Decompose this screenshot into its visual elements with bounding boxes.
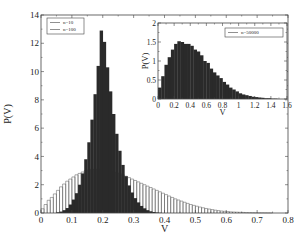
bar bbox=[121, 165, 124, 213]
bar-outline bbox=[205, 208, 208, 213]
x-tick-label: 0.1 bbox=[66, 215, 77, 225]
legend: n=50000 bbox=[225, 28, 283, 37]
bar bbox=[90, 120, 93, 213]
x-tick-label: 0.2 bbox=[97, 215, 108, 225]
bar-outline bbox=[149, 188, 152, 213]
bar-outline bbox=[208, 209, 211, 213]
bar-outline bbox=[161, 193, 164, 213]
bar-outline bbox=[155, 190, 158, 213]
y-tick-label: 1 bbox=[152, 57, 156, 66]
y-tick-label: 10 bbox=[30, 67, 40, 77]
bar bbox=[203, 61, 207, 99]
bar bbox=[174, 44, 178, 99]
bar bbox=[97, 66, 100, 213]
bar-outline bbox=[192, 205, 195, 213]
bar-outline bbox=[195, 206, 198, 213]
histogram-chart: 00.10.20.30.40.50.60.70.802468101214VP(V… bbox=[0, 0, 307, 238]
bar-outline bbox=[177, 200, 180, 213]
y-tick-label: 6 bbox=[35, 123, 40, 133]
bar-outline bbox=[63, 184, 66, 213]
bar bbox=[190, 46, 194, 99]
y-axis-label: P(V) bbox=[140, 53, 150, 70]
bar bbox=[72, 200, 75, 213]
x-axis-label: V bbox=[161, 223, 169, 234]
bar-outline bbox=[211, 210, 214, 213]
bar bbox=[229, 88, 233, 99]
bar bbox=[206, 63, 210, 99]
bar bbox=[197, 52, 201, 100]
x-tick-label: 0.7 bbox=[252, 215, 264, 225]
bar bbox=[187, 44, 191, 99]
bar bbox=[63, 210, 66, 213]
bar-outline bbox=[183, 202, 186, 213]
bar bbox=[210, 69, 214, 99]
bar bbox=[66, 208, 69, 213]
y-tick-label: 1.5 bbox=[147, 38, 157, 47]
legend: n=10n=100 bbox=[47, 18, 84, 34]
y-tick-label: 2 bbox=[152, 19, 156, 28]
y-tick-label: 12 bbox=[30, 38, 39, 48]
x-axis-label: V bbox=[219, 107, 226, 117]
bar-outline bbox=[60, 187, 63, 213]
bar-outline bbox=[41, 209, 44, 213]
bar bbox=[200, 55, 204, 99]
y-tick-label: 8 bbox=[35, 95, 40, 105]
bar-outline bbox=[180, 201, 183, 213]
bar bbox=[75, 193, 78, 213]
bar-outline bbox=[202, 208, 205, 213]
y-tick-label: 2 bbox=[35, 180, 40, 190]
bar bbox=[118, 151, 121, 213]
legend-label: n=10 bbox=[63, 20, 74, 25]
y-tick-label: 4 bbox=[35, 152, 40, 162]
x-tick-label: 0.8 bbox=[282, 215, 294, 225]
bar bbox=[242, 94, 246, 99]
y-tick-label: 0 bbox=[35, 208, 40, 218]
bar-outline bbox=[189, 205, 192, 213]
bar bbox=[124, 176, 127, 213]
bar bbox=[232, 90, 236, 100]
bar-outline bbox=[171, 197, 174, 213]
bar bbox=[134, 198, 137, 213]
bar bbox=[193, 50, 197, 99]
bar-outline bbox=[152, 189, 155, 213]
bar bbox=[226, 85, 230, 99]
bar-outline bbox=[158, 192, 161, 213]
bar bbox=[127, 185, 130, 213]
bar-outline bbox=[165, 195, 168, 213]
x-tick-label: 0.6 bbox=[221, 215, 233, 225]
bar bbox=[131, 192, 134, 213]
bar-outline bbox=[47, 200, 50, 213]
bar-outline bbox=[53, 194, 56, 213]
x-tick-label: 1.2 bbox=[250, 101, 260, 110]
x-tick-label: 0 bbox=[39, 215, 44, 225]
y-axis-label: P(V) bbox=[2, 104, 14, 123]
bar bbox=[103, 42, 106, 213]
chart-figure: 00.10.20.30.40.50.60.70.802468101214VP(V… bbox=[0, 0, 307, 238]
bar bbox=[115, 134, 118, 213]
bar bbox=[143, 208, 146, 213]
bar bbox=[106, 67, 109, 213]
bar-outline bbox=[168, 196, 171, 213]
bar-outline bbox=[146, 186, 149, 213]
bar bbox=[137, 202, 140, 213]
legend-label: n=50000 bbox=[241, 30, 259, 35]
bar-outline bbox=[50, 197, 53, 213]
bar-outline bbox=[56, 190, 59, 213]
bar-outline bbox=[186, 203, 189, 213]
bar bbox=[161, 76, 165, 99]
bar bbox=[239, 93, 243, 99]
bar bbox=[140, 206, 143, 213]
x-tick-label: 0 bbox=[156, 101, 160, 110]
bar bbox=[248, 96, 252, 99]
inset-plot: 00.20.40.60.811.21.41.600.511.52VP(V)n=5… bbox=[140, 19, 292, 117]
bar bbox=[216, 75, 220, 99]
bar-outline bbox=[174, 199, 177, 213]
bar-outline bbox=[214, 210, 217, 213]
bar bbox=[219, 78, 223, 99]
y-tick-label: 0.5 bbox=[147, 76, 157, 85]
bar bbox=[164, 65, 168, 99]
bar bbox=[78, 185, 81, 213]
x-tick-label: 1 bbox=[237, 101, 241, 110]
bar bbox=[112, 114, 115, 213]
bar bbox=[181, 42, 185, 99]
